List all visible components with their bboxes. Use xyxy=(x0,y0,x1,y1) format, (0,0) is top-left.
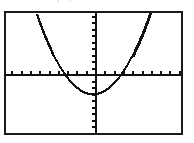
graph-plot[interactable] xyxy=(6,13,181,133)
x-axis-tick xyxy=(11,71,13,74)
y-axis-tick xyxy=(92,100,95,102)
curve-pixel xyxy=(147,22,149,24)
curve-pixel xyxy=(126,65,128,67)
x-axis-tick xyxy=(160,71,162,74)
calculator-screenshot: calculator display y = (x^2 - 9) / 3 xyxy=(0,0,194,143)
curve-pixel xyxy=(120,74,122,76)
curve-pixel xyxy=(127,63,129,65)
curve-pixel xyxy=(64,73,66,75)
x-axis-tick xyxy=(76,71,78,74)
x-axis-line xyxy=(6,74,181,76)
x-axis-tick xyxy=(58,71,60,74)
x-axis-tick xyxy=(132,71,134,74)
y-axis-tick xyxy=(92,61,95,63)
curve-pixel xyxy=(37,15,39,17)
curve-pixel xyxy=(50,47,52,49)
x-axis-tick xyxy=(104,71,106,74)
curve-pixel xyxy=(136,48,138,50)
clipped-header-text-label: calculator display xyxy=(3,0,74,2)
y-axis-tick xyxy=(92,107,95,109)
curve-pixel xyxy=(46,38,48,40)
x-axis-tick xyxy=(39,71,41,74)
curve-pixel xyxy=(137,46,139,48)
curve-pixel xyxy=(150,13,152,15)
clipped-header-text: calculator display xyxy=(0,0,194,7)
curve-pixel xyxy=(62,70,64,72)
x-axis-tick xyxy=(30,71,32,74)
curve-pixel xyxy=(38,18,40,20)
y-axis-tick xyxy=(92,81,95,83)
y-axis-tick xyxy=(92,48,95,50)
curve-pixel xyxy=(56,60,58,62)
y-axis-tick xyxy=(92,16,95,18)
x-axis-tick xyxy=(142,71,144,74)
curve-pixel xyxy=(118,77,120,79)
y-axis-tick xyxy=(92,29,95,31)
curve-pixel xyxy=(53,55,55,57)
y-axis-tick xyxy=(92,42,95,44)
x-axis-tick xyxy=(114,71,116,74)
curve-pixel xyxy=(135,50,137,52)
curve-pixel xyxy=(142,35,144,37)
graph-frame xyxy=(4,11,183,135)
curve-pixel xyxy=(133,55,135,57)
curve-pixel xyxy=(140,39,142,41)
x-axis-tick xyxy=(21,71,23,74)
y-axis-tick xyxy=(92,22,95,24)
curve-pixel xyxy=(41,26,43,28)
y-axis-tick xyxy=(92,113,95,115)
curve-pixel xyxy=(40,23,42,25)
curve-pixel xyxy=(141,37,143,39)
curve-pixel xyxy=(124,68,126,70)
curve-pixel xyxy=(149,16,151,18)
y-axis-tick xyxy=(92,68,95,70)
y-axis-tick xyxy=(92,120,95,122)
x-axis-tick xyxy=(49,71,51,74)
curve-pixel xyxy=(131,56,133,58)
curve-pixel xyxy=(122,71,124,73)
y-axis-tick xyxy=(92,55,95,57)
curve-pixel xyxy=(138,44,140,46)
x-axis-tick xyxy=(169,71,171,74)
x-axis-tick xyxy=(86,71,88,74)
curve-pixel xyxy=(43,31,45,33)
curve-pixel xyxy=(57,62,59,64)
y-axis-tick xyxy=(92,126,95,128)
curve-pixel xyxy=(146,24,148,26)
curve-pixel xyxy=(54,57,56,59)
curve-pixel xyxy=(58,64,60,66)
curve-pixel xyxy=(52,53,54,55)
curve-pixel xyxy=(60,67,62,69)
curve-pixel xyxy=(145,27,147,29)
curve-pixel xyxy=(148,19,150,21)
curve-pixel xyxy=(143,32,145,34)
x-axis-tick xyxy=(151,71,153,74)
y-axis-tick xyxy=(92,35,95,37)
x-axis-tick xyxy=(179,71,181,74)
x-axis-tick xyxy=(67,71,69,74)
y-axis-line xyxy=(95,13,97,133)
curve-pixel xyxy=(67,77,69,79)
curve-pixel xyxy=(139,42,141,44)
curve-pixel xyxy=(128,61,130,63)
curve-pixel xyxy=(129,59,131,61)
y-axis-tick xyxy=(92,87,95,89)
axes-layer xyxy=(6,13,181,133)
curve-pixel xyxy=(134,53,136,55)
curve-pixel xyxy=(144,30,146,32)
